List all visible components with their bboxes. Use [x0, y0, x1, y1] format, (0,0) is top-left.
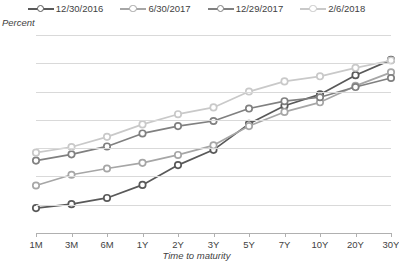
- data-point-marker[interactable]: [352, 84, 358, 90]
- legend-item-label: 2/6/2018: [328, 4, 365, 14]
- x-axis-tick-label: 3Y: [208, 239, 220, 250]
- data-point-marker[interactable]: [33, 149, 39, 155]
- gridline: [36, 148, 391, 149]
- y-axis-title: Percent: [2, 17, 35, 28]
- data-point-marker[interactable]: [104, 134, 110, 140]
- chart-legend: 12/30/20166/30/201712/29/20172/6/2018: [0, 0, 393, 17]
- x-axis-tick-mark: [249, 233, 250, 237]
- series-line: [36, 72, 391, 185]
- data-point-marker[interactable]: [352, 72, 358, 78]
- legend-item-label: 12/30/2016: [56, 4, 104, 14]
- data-point-marker[interactable]: [68, 144, 74, 150]
- x-axis-title: Time to maturity: [0, 250, 393, 261]
- legend-marker-icon: [28, 3, 54, 14]
- gridline: [36, 120, 391, 121]
- gridline: [36, 92, 391, 93]
- x-axis-tick-mark: [72, 233, 73, 237]
- x-axis-tick-label: 1Y: [137, 239, 149, 250]
- data-point-marker[interactable]: [281, 78, 287, 84]
- data-point-marker[interactable]: [68, 151, 74, 157]
- x-axis-tick-label: 30Y: [383, 239, 399, 250]
- gridline: [36, 63, 391, 64]
- legend-item-label: 6/30/2017: [148, 4, 190, 14]
- data-point-marker[interactable]: [139, 130, 145, 136]
- data-point-marker[interactable]: [352, 65, 358, 71]
- data-point-marker[interactable]: [246, 123, 252, 129]
- x-axis-tick-label: 5Y: [243, 239, 255, 250]
- legend-marker-icon: [120, 3, 146, 14]
- x-axis-tick-label: 20Y: [347, 239, 364, 250]
- data-point-marker[interactable]: [175, 111, 181, 117]
- data-point-marker[interactable]: [210, 104, 216, 110]
- data-point-marker[interactable]: [104, 195, 110, 201]
- data-point-marker[interactable]: [317, 94, 323, 100]
- x-axis-tick-label: 3M: [65, 239, 78, 250]
- data-point-marker[interactable]: [33, 182, 39, 188]
- legend-item-0[interactable]: 12/30/2016: [28, 3, 104, 14]
- data-point-marker[interactable]: [139, 121, 145, 127]
- legend-item-label: 12/29/2017: [236, 4, 284, 14]
- x-axis-tick-mark: [107, 233, 108, 237]
- data-point-marker[interactable]: [210, 118, 216, 124]
- x-axis-tick-label: 2Y: [172, 239, 184, 250]
- x-axis-tick-label: 1M: [29, 239, 42, 250]
- x-axis-tick-mark: [320, 233, 321, 237]
- data-point-marker[interactable]: [281, 98, 287, 104]
- series-3: [33, 57, 394, 156]
- legend-item-2[interactable]: 12/29/2017: [208, 3, 284, 14]
- x-axis-tick-mark: [143, 233, 144, 237]
- data-point-marker[interactable]: [104, 165, 110, 171]
- gridline: [36, 205, 391, 206]
- data-point-marker[interactable]: [246, 105, 252, 111]
- data-point-marker[interactable]: [33, 205, 39, 211]
- x-axis-tick-label: 6M: [100, 239, 113, 250]
- data-point-marker[interactable]: [317, 73, 323, 79]
- x-axis-tick-label: 7Y: [279, 239, 291, 250]
- legend-item-1[interactable]: 6/30/2017: [120, 3, 190, 14]
- x-axis-tick-mark: [391, 233, 392, 237]
- series-0: [33, 57, 394, 212]
- legend-marker-icon: [208, 3, 234, 14]
- series-1: [33, 69, 394, 189]
- x-axis-tick-mark: [178, 233, 179, 237]
- legend-marker-icon: [300, 3, 326, 14]
- x-axis-tick-label: 10Y: [312, 239, 329, 250]
- legend-item-3[interactable]: 2/6/2018: [300, 3, 365, 14]
- plot-area: 0.00.51.01.52.02.53.03.51M3M6M1Y2Y3Y5Y7Y…: [36, 35, 391, 233]
- gridline: [36, 35, 391, 36]
- data-point-marker[interactable]: [139, 160, 145, 166]
- data-point-marker[interactable]: [33, 157, 39, 163]
- data-point-marker[interactable]: [175, 152, 181, 158]
- data-point-marker[interactable]: [388, 75, 394, 81]
- data-point-marker[interactable]: [281, 109, 287, 115]
- data-point-marker[interactable]: [175, 123, 181, 129]
- series-line: [36, 60, 391, 208]
- data-point-marker[interactable]: [139, 182, 145, 188]
- x-axis-tick-mark: [36, 233, 37, 237]
- series-layer: [36, 35, 391, 233]
- data-point-marker[interactable]: [175, 162, 181, 168]
- x-axis-tick-mark: [285, 233, 286, 237]
- x-axis-tick-mark: [356, 233, 357, 237]
- x-axis-tick-mark: [214, 233, 215, 237]
- gridline: [36, 176, 391, 177]
